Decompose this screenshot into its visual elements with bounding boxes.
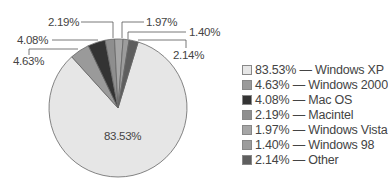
legend-text: 83.53% — Windows XP bbox=[255, 63, 384, 77]
legend-text: 4.08% — Mac OS bbox=[255, 93, 352, 107]
legend-item-windows-2000: 4.63% — Windows 2000 bbox=[242, 77, 388, 92]
pie-chart: 2.19% 1.97% 1.40% 4.08% 4.63% 2.14% 83.5… bbox=[0, 0, 240, 186]
pie-slices bbox=[49, 39, 187, 177]
legend-text: 1.97% — Windows Vista bbox=[255, 123, 387, 137]
label-windows-xp: 83.53% bbox=[104, 130, 141, 142]
legend-swatch bbox=[242, 125, 252, 135]
legend-text: 4.63% — Windows 2000 bbox=[255, 78, 388, 92]
label-windows-2000: 4.63% bbox=[13, 55, 44, 67]
legend-swatch bbox=[242, 110, 252, 120]
legend-swatch bbox=[242, 80, 252, 90]
legend-item-macintel: 2.19% — Macintel bbox=[242, 107, 388, 122]
legend-item-windows-xp: 83.53% — Windows XP bbox=[242, 62, 388, 77]
legend-item-windows-98: 1.40% — Windows 98 bbox=[242, 137, 388, 152]
legend: 83.53% — Windows XP 4.63% — Windows 2000… bbox=[242, 62, 388, 167]
legend-text: 2.14% — Other bbox=[255, 153, 339, 167]
legend-text: 1.40% — Windows 98 bbox=[255, 138, 374, 152]
label-windows-vista: 1.97% bbox=[146, 16, 177, 28]
legend-swatch bbox=[242, 155, 252, 165]
legend-text: 2.19% — Macintel bbox=[255, 108, 353, 122]
legend-swatch bbox=[242, 95, 252, 105]
legend-item-other: 2.14% — Other bbox=[242, 152, 388, 167]
label-other: 2.14% bbox=[173, 49, 204, 61]
legend-item-windows-vista: 1.97% — Windows Vista bbox=[242, 122, 388, 137]
legend-swatch bbox=[242, 65, 252, 75]
legend-swatch bbox=[242, 140, 252, 150]
label-macintel: 2.19% bbox=[48, 16, 79, 28]
label-mac-os: 4.08% bbox=[17, 34, 48, 46]
legend-item-mac-os: 4.08% — Mac OS bbox=[242, 92, 388, 107]
label-windows-98: 1.40% bbox=[189, 26, 220, 38]
